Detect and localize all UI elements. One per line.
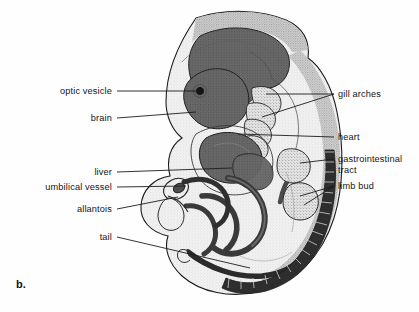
label-optic-vesicle: optic vesicle — [60, 86, 112, 96]
label-limb-bud: limb bud — [338, 181, 374, 191]
label-gastrointestinal-tract: gastrointestinal — [338, 154, 402, 164]
limb-bud-upper — [277, 149, 310, 183]
limb-bud-organ — [283, 183, 318, 220]
embryo-figure-panel: optic vesicle brain liver umbilical vess… — [0, 0, 419, 312]
panel-letter: b. — [16, 278, 26, 290]
embryo-body-group — [141, 11, 342, 294]
label-tail: tail — [100, 232, 112, 242]
label-heart: heart — [338, 132, 360, 142]
label-gill-arches: gill arches — [338, 89, 381, 99]
label-brain: brain — [91, 113, 112, 123]
label-allantois: allantois — [77, 204, 112, 214]
label-gastrointestinal-tract-line2: tract — [338, 165, 357, 175]
label-umbilical-vessel: umbilical vessel — [45, 182, 112, 192]
labels-left-group: optic vesicle brain liver umbilical vess… — [45, 86, 112, 242]
embryo-diagram: optic vesicle brain liver umbilical vess… — [0, 0, 419, 312]
labels-right-group: gill arches heart gastrointestinal tract… — [338, 89, 402, 191]
label-liver: liver — [94, 167, 112, 177]
